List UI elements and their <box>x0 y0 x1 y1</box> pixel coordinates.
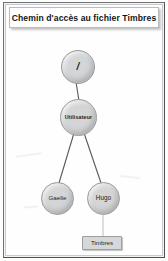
tree-node-timbres-label: Timbres <box>91 240 113 246</box>
tree-node-timbres[interactable]: Timbres <box>82 236 122 250</box>
tree-node-root[interactable]: / <box>61 50 95 84</box>
tree-diagram: / Utilisateur Gaelle Hugo Timbres <box>0 0 168 261</box>
edge-utilisateur-gaelle <box>59 133 74 183</box>
edge-utilisateur-hugo <box>84 133 101 183</box>
tree-node-root-label: / <box>77 62 80 72</box>
tree-node-gaelle-label: Gaelle <box>49 195 67 201</box>
tree-node-hugo-label: Hugo <box>96 195 111 201</box>
tree-node-utilisateur-label: Utilisateur <box>65 115 92 120</box>
tree-node-utilisateur[interactable]: Utilisateur <box>60 99 97 136</box>
scanned-page: Chemin d'accès au fichier Timbres / Util… <box>0 0 168 261</box>
tree-node-hugo[interactable]: Hugo <box>87 182 120 215</box>
tree-node-gaelle[interactable]: Gaelle <box>41 182 74 215</box>
